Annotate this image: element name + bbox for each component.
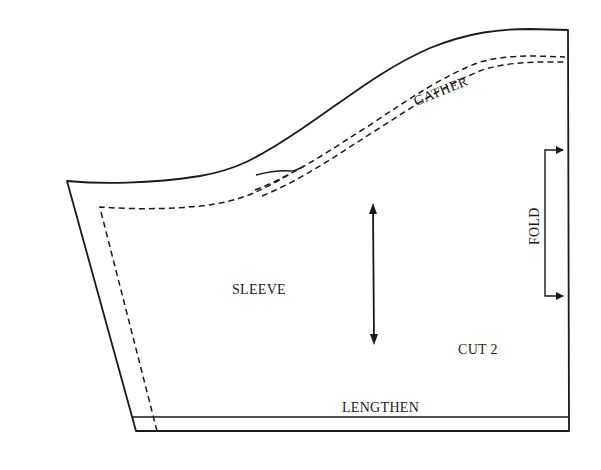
lengthen-label: LENGTHEN <box>342 400 419 415</box>
gather-label: GATHER <box>412 73 471 108</box>
cut-instruction-label: CUT 2 <box>458 342 498 357</box>
gather-stitching <box>255 56 565 196</box>
grainline-arrow-icon <box>369 203 378 345</box>
fold-label: FOLD <box>527 207 542 245</box>
sleeve-label: SLEEVE <box>232 282 286 297</box>
fold-bracket-icon <box>545 146 564 300</box>
pattern-canvas: SLEEVE CUT 2 LENGTHEN GATHER FOLD <box>0 0 601 470</box>
seam-line <box>100 174 290 431</box>
